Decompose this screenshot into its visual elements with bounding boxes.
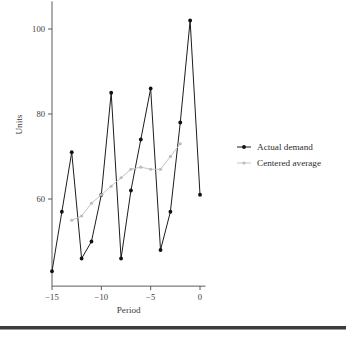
data-point (178, 121, 182, 125)
data-point (169, 210, 173, 214)
data-point (179, 142, 182, 145)
data-point (159, 248, 163, 252)
legend-item-label: Centered average (257, 158, 321, 168)
data-point (139, 138, 143, 142)
y-axis-tick-label: 100 (32, 24, 45, 34)
series-centered-average (70, 142, 182, 222)
data-point (50, 269, 54, 273)
legend-item-label: Actual demand (257, 142, 313, 152)
data-point (149, 87, 153, 91)
data-point (119, 257, 123, 261)
x-axis-tick-label: 0 (198, 292, 202, 302)
line-chart: 6080100−15−10−50PeriodUnitsActual demand… (0, 0, 346, 341)
legend-item[interactable]: Actual demand (237, 142, 313, 152)
legend-swatch-marker (242, 145, 246, 149)
x-axis-tick-label: −5 (146, 292, 155, 302)
data-point (80, 257, 84, 261)
data-point (159, 168, 162, 171)
data-point (129, 189, 133, 193)
x-axis-tick-label: −10 (95, 292, 108, 302)
data-point (169, 155, 172, 158)
data-point (198, 193, 202, 197)
data-point (80, 214, 83, 217)
y-axis-tick-label: 80 (36, 109, 45, 119)
chart-figure: 6080100−15−10−50PeriodUnitsActual demand… (0, 0, 346, 341)
legend-swatch-marker (242, 161, 245, 164)
data-point (149, 168, 152, 171)
page-footer-rule-secondary (0, 329, 346, 330)
data-point (188, 19, 192, 23)
y-axis-title: Units (14, 114, 24, 134)
data-point (90, 202, 93, 205)
x-axis-tick-label: −15 (45, 292, 58, 302)
data-point (109, 91, 113, 95)
data-point (110, 185, 113, 188)
data-point (60, 210, 64, 214)
series-centered-average-line (72, 144, 181, 221)
x-axis-title: Period (117, 305, 141, 315)
series-actual-demand-line (52, 21, 200, 272)
data-point (70, 219, 73, 222)
data-point (139, 166, 142, 169)
data-point (90, 240, 94, 244)
data-point (100, 193, 103, 196)
legend-item[interactable]: Centered average (237, 158, 321, 168)
data-point (70, 150, 74, 154)
y-axis-tick-label: 60 (36, 194, 45, 204)
data-point (129, 168, 132, 171)
data-point (119, 176, 122, 179)
